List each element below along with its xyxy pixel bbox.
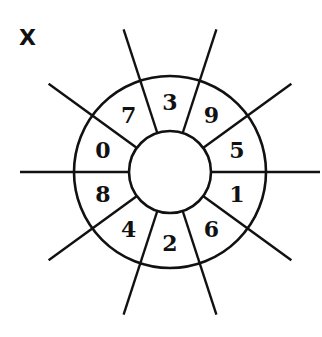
number-wheel: 3951624807	[0, 0, 322, 337]
sector-number: 6	[204, 216, 219, 242]
sector-number: 1	[229, 181, 244, 207]
sector-number: 3	[162, 89, 177, 115]
sector-number: 0	[95, 137, 110, 163]
figure-label: X	[19, 27, 36, 49]
sector-number: 8	[95, 181, 110, 207]
sector-number: 9	[204, 102, 219, 128]
inner-ring	[129, 131, 211, 213]
sector-number: 2	[162, 230, 177, 256]
number-wheel-figure: X 3951624807	[0, 0, 322, 337]
sector-number: 5	[229, 137, 244, 163]
sector-number: 4	[121, 216, 136, 242]
sector-number: 7	[121, 102, 136, 128]
